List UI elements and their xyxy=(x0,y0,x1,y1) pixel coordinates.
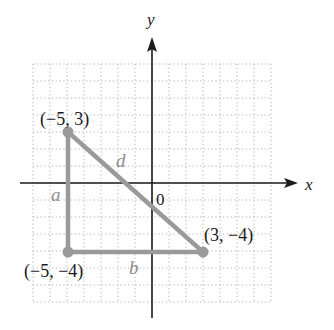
point-label-2: (−5, −4) xyxy=(24,261,83,282)
side-d xyxy=(68,132,203,252)
right-triangle xyxy=(63,127,209,258)
coordinate-plane: x y 0 (−5, 3) (−5, −4) (3, −4) a b d xyxy=(0,0,334,330)
y-axis-label: y xyxy=(145,10,155,29)
side-label-a: a xyxy=(51,184,61,205)
origin-label: 0 xyxy=(156,190,165,209)
side-label-d: d xyxy=(116,150,126,171)
point-label-1: (−5, 3) xyxy=(40,109,89,130)
point-c xyxy=(198,247,209,258)
x-axis-label: x xyxy=(304,175,313,194)
point-b xyxy=(63,247,74,258)
side-label-b: b xyxy=(129,257,139,278)
point-label-3: (3, −4) xyxy=(204,225,253,246)
